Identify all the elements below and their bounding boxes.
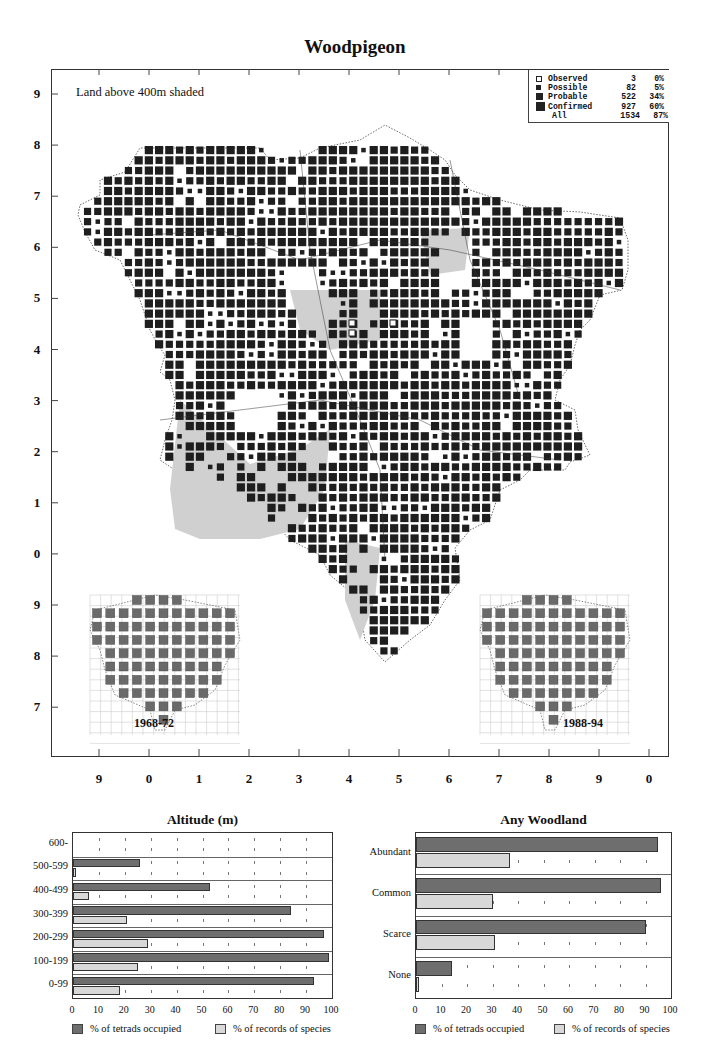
bar-records-of-species bbox=[73, 963, 138, 971]
grid-tick bbox=[306, 885, 307, 888]
grid-tick bbox=[151, 861, 152, 864]
grid-tick bbox=[99, 848, 100, 851]
band-separator bbox=[73, 974, 332, 975]
grid-tick bbox=[203, 838, 204, 841]
grid-tick bbox=[151, 838, 152, 841]
legend-swatch-icon bbox=[72, 1024, 83, 1034]
grid-tick bbox=[306, 966, 307, 969]
grid-tick bbox=[493, 965, 494, 968]
category-label: 300-399 bbox=[2, 908, 68, 919]
grid-tick bbox=[228, 838, 229, 841]
x-tick-label: 80 bbox=[267, 1004, 291, 1015]
grid-tick bbox=[151, 966, 152, 969]
bar-tetrads-occupied bbox=[416, 920, 646, 935]
band-separator bbox=[73, 880, 332, 881]
category-label: 600- bbox=[2, 837, 68, 848]
legend-percent: 87% bbox=[640, 111, 668, 120]
band-separator bbox=[73, 927, 332, 928]
grid-tick bbox=[203, 943, 204, 946]
x-tick-label: 50 bbox=[531, 1004, 555, 1015]
grid-tick bbox=[646, 924, 647, 927]
grid-tick bbox=[569, 942, 570, 945]
grid-tick bbox=[620, 901, 621, 904]
grid-tick bbox=[306, 943, 307, 946]
grid-tick bbox=[228, 872, 229, 875]
grid-tick bbox=[493, 901, 494, 904]
grid-tick bbox=[306, 848, 307, 851]
legend-row: Probable52234% bbox=[536, 92, 669, 101]
chart-legend-item: % of records of species bbox=[215, 1023, 331, 1034]
legend-label: % of records of species bbox=[572, 1023, 670, 1034]
grid-tick bbox=[646, 860, 647, 863]
bar-tetrads-occupied bbox=[416, 878, 661, 893]
grid-tick bbox=[151, 872, 152, 875]
y-tick-label: 8 bbox=[30, 648, 44, 664]
category-label: 200-299 bbox=[2, 931, 68, 942]
x-tick-label: 70 bbox=[582, 1004, 606, 1015]
grid-tick bbox=[177, 861, 178, 864]
grid-tick bbox=[544, 965, 545, 968]
legend-label: Observed bbox=[548, 74, 606, 83]
category-label: None bbox=[345, 969, 411, 980]
bar-records-of-species bbox=[73, 939, 148, 947]
x-tick-label: 80 bbox=[607, 1004, 631, 1015]
grid-tick bbox=[228, 895, 229, 898]
y-tick-label: 7 bbox=[30, 188, 44, 204]
grid-tick bbox=[569, 860, 570, 863]
grid-tick bbox=[228, 919, 229, 922]
legend-label: Probable bbox=[548, 92, 606, 101]
grid-tick bbox=[254, 885, 255, 888]
x-tick-label: 20 bbox=[112, 1004, 136, 1015]
grid-tick bbox=[151, 895, 152, 898]
page-title: Woodpigeon bbox=[0, 36, 710, 58]
y-tick-label: 9 bbox=[30, 597, 44, 613]
bar-records-of-species bbox=[416, 894, 493, 909]
grid-tick bbox=[306, 990, 307, 993]
grid-tick bbox=[254, 919, 255, 922]
grid-tick bbox=[177, 943, 178, 946]
x-tick-label: 50 bbox=[190, 1004, 214, 1015]
grid-tick bbox=[280, 895, 281, 898]
grid-tick bbox=[254, 943, 255, 946]
chart-title: Altitude (m) bbox=[72, 812, 333, 828]
grid-tick bbox=[254, 872, 255, 875]
small-square-icon bbox=[536, 85, 548, 90]
y-tick-label: 9 bbox=[30, 86, 44, 102]
grid-tick bbox=[203, 990, 204, 993]
y-tick-label: 6 bbox=[30, 239, 44, 255]
grid-tick bbox=[254, 848, 255, 851]
x-tick-label: 10 bbox=[429, 1004, 453, 1015]
bar-tetrads-occupied bbox=[73, 953, 329, 961]
grid-tick bbox=[280, 966, 281, 969]
x-tick-label: 8 bbox=[542, 771, 556, 787]
bar-records-of-species bbox=[73, 986, 120, 994]
grid-tick bbox=[544, 860, 545, 863]
bar-records-of-species bbox=[416, 977, 419, 992]
legend-count: 1534 bbox=[610, 111, 640, 120]
legend-row: All153487% bbox=[536, 111, 669, 120]
legend-swatch-icon bbox=[554, 1024, 565, 1034]
band-separator bbox=[73, 904, 332, 905]
grid-tick bbox=[646, 965, 647, 968]
grid-tick bbox=[280, 943, 281, 946]
grid-tick bbox=[99, 838, 100, 841]
x-tick-label: 90 bbox=[293, 1004, 317, 1015]
grid-tick bbox=[280, 861, 281, 864]
grid-tick bbox=[177, 838, 178, 841]
x-tick-label: 30 bbox=[138, 1004, 162, 1015]
category-label: 0-99 bbox=[2, 978, 68, 989]
grid-tick bbox=[177, 919, 178, 922]
grid-tick bbox=[177, 872, 178, 875]
grid-tick bbox=[151, 848, 152, 851]
grid-tick bbox=[646, 901, 647, 904]
grid-tick bbox=[151, 919, 152, 922]
category-label: 500-599 bbox=[2, 860, 68, 871]
grid-tick bbox=[228, 861, 229, 864]
category-label: Common bbox=[345, 887, 411, 898]
grid-tick bbox=[254, 838, 255, 841]
legend-row: Possible825% bbox=[536, 83, 669, 92]
y-tick-label: 2 bbox=[30, 444, 44, 460]
x-tick-label: 10 bbox=[86, 1004, 110, 1015]
band-separator bbox=[416, 916, 671, 917]
legend-percent: 5% bbox=[636, 83, 664, 92]
